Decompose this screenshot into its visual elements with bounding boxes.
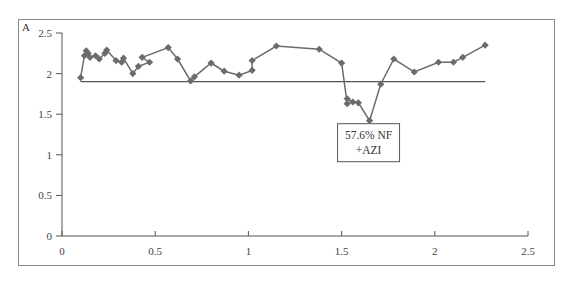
x-tick-label: 0 [59, 245, 65, 257]
x-tick-label: 2 [432, 245, 438, 257]
x-tick-label: 0.5 [148, 245, 162, 257]
y-tick-label: 2 [47, 68, 53, 80]
chart: A 00.511.522.500.511.522.5 57.6% NF+AZI [0, 0, 570, 282]
x-tick-label: 1 [246, 245, 252, 257]
y-tick-label: 1.5 [38, 108, 52, 120]
x-tick-label: 1.5 [335, 245, 349, 257]
y-tick-label: 2.5 [38, 27, 52, 39]
panel-label: A [22, 21, 30, 33]
y-tick-label: 1 [47, 149, 53, 161]
annotation-text: 57.6% NF [345, 129, 392, 141]
annotation: 57.6% NF+AZI [338, 124, 400, 162]
annotation-text: +AZI [356, 144, 382, 156]
y-tick-label: 0 [47, 230, 53, 242]
x-tick-label: 2.5 [521, 245, 535, 257]
y-tick-label: 0.5 [38, 189, 52, 201]
